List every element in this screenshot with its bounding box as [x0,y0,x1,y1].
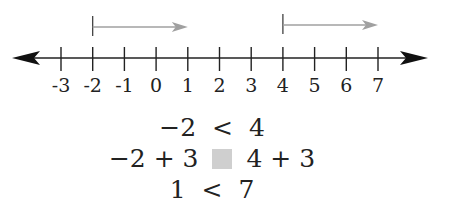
tick-label: -3 [52,74,71,96]
eq1-operator: < [212,113,233,143]
eq2-right: 4 + 3 [246,144,315,174]
eq3-right: 7 [238,175,254,205]
tick-label: -1 [115,74,134,96]
tick-label: 6 [340,74,352,96]
eq3-left: 1 [170,175,186,205]
tick-label: 2 [213,74,225,96]
tick-label: 7 [372,74,384,96]
shift-arrow [283,14,378,34]
inequality-line-1: −2 < 4 [0,113,424,143]
inequality-line-2: −2 + 3 4 + 3 [0,144,424,174]
shift-arrows [93,14,378,36]
tick-label: 5 [309,74,321,96]
tick-label: -2 [83,74,102,96]
tick-label: 3 [245,74,257,96]
eq1-right: 4 [249,113,265,143]
tick-label: 4 [277,74,289,96]
tick-marks [61,47,378,71]
eq1-left: −2 [159,113,196,143]
shift-arrow [93,16,188,36]
tick-label: 0 [150,74,162,96]
tick-labels: -3-2-101234567 [52,74,384,96]
eq2-left: −2 + 3 [109,144,199,174]
number-line: -3-2-101234567 [0,0,464,110]
tick-label: 1 [182,74,194,96]
inequality-line-3: 1 < 7 [0,175,424,205]
eq3-operator: < [202,175,223,205]
operator-placeholder-box [212,149,232,169]
